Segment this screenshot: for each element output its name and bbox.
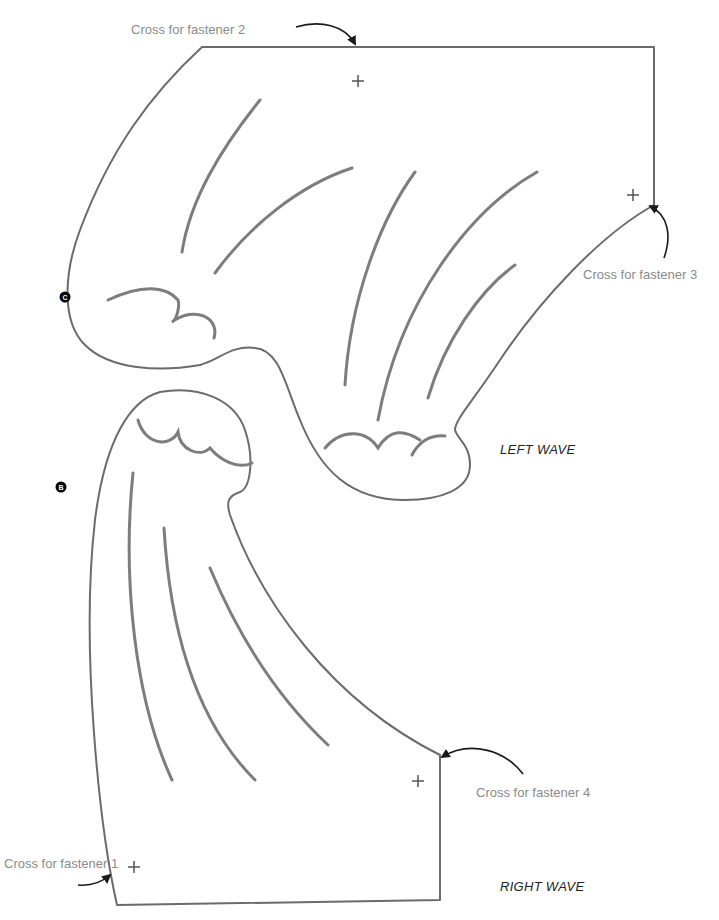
texture-stroke [182, 100, 260, 252]
label-fastener-2: Cross for fastener 2 [131, 22, 245, 37]
cross-fastener-3 [627, 189, 639, 201]
arrow-fastener-4 [442, 749, 523, 774]
marker-c: C [60, 292, 71, 303]
right-wave-outline [90, 390, 440, 905]
cross-fastener-2 [352, 75, 364, 87]
label-fastener-4: Cross for fastener 4 [476, 785, 590, 800]
wave-pattern-diagram: Cross for fastener 2 Cross for fastener … [0, 0, 719, 920]
curl-stroke [108, 289, 215, 338]
texture-stroke [428, 265, 515, 398]
texture-stroke [378, 172, 537, 420]
fastener-crosses [128, 75, 639, 873]
arrow-fastener-3 [650, 206, 668, 258]
left-wave-outline [68, 47, 655, 500]
arrow-fastener-1 [78, 875, 110, 885]
svg-text:C: C [62, 294, 67, 301]
curl-stroke [325, 433, 445, 455]
label-fastener-3: Cross for fastener 3 [583, 267, 697, 282]
svg-text:B: B [58, 484, 63, 491]
texture-stroke [129, 473, 172, 780]
cross-fastener-1 [128, 861, 140, 873]
texture-stroke [164, 528, 255, 780]
arrow-fastener-2 [296, 24, 355, 44]
texture-stroke [345, 172, 415, 385]
right-wave-texture [129, 420, 328, 780]
texture-stroke [215, 168, 352, 273]
right-wave-title: RIGHT WAVE [500, 879, 584, 894]
label-fastener-1: Cross for fastener 1 [4, 856, 118, 871]
left-wave-title: LEFT WAVE [500, 442, 575, 457]
curl-stroke [138, 420, 252, 465]
cross-fastener-4 [412, 775, 424, 787]
marker-b: B [56, 482, 67, 493]
left-wave-texture [108, 100, 537, 455]
